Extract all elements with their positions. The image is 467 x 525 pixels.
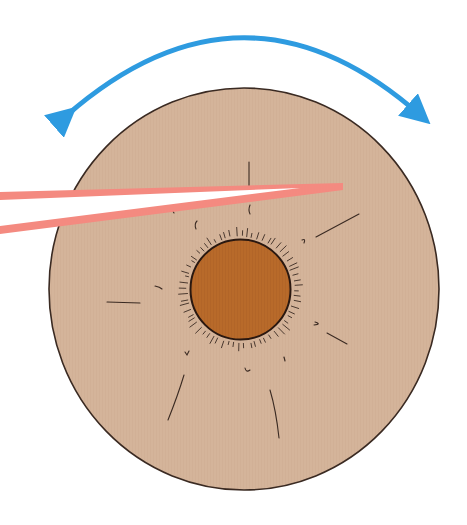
diagram-stage (0, 0, 467, 525)
iris-fringe-tick (237, 227, 238, 236)
iris-fringe-tick (233, 342, 234, 346)
iris (191, 240, 291, 340)
iris-fringe-tick (295, 285, 302, 286)
eye-laser-diagram (0, 0, 467, 525)
